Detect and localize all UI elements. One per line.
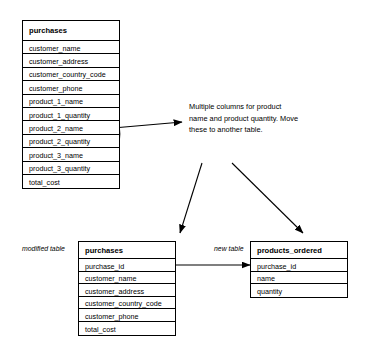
table-row: product_1_name (23, 95, 119, 108)
table-header-purchases-modified: purchases (79, 242, 175, 259)
table-row: product_3_name (23, 148, 119, 161)
table-row: total_cost (23, 175, 119, 188)
table-row: product_3_quantity (23, 162, 119, 175)
caption-new-table: new table (214, 246, 244, 253)
table-purchases-original: purchases customer_name customer_address… (22, 20, 120, 189)
table-row: customer_country_code (23, 68, 119, 81)
table-row: customer_name (23, 41, 119, 54)
diagram-canvas: purchases customer_name customer_address… (0, 0, 365, 353)
table-row: customer_phone (79, 309, 175, 322)
table-row: purchase_id (79, 259, 175, 272)
annotation-note: Multiple columns for product name and pr… (189, 101, 301, 136)
table-row: customer_country_code (79, 297, 175, 310)
table-row: customer_address (23, 54, 119, 67)
table-row: name (251, 272, 347, 285)
table-row: customer_address (79, 284, 175, 297)
table-purchases-modified: purchases purchase_id customer_name cust… (78, 241, 176, 336)
ellipse-to-annotation-arrow (113, 122, 182, 128)
annotation-to-modified-table-arrow (180, 163, 202, 233)
table-row: product_1_quantity (23, 108, 119, 121)
table-row: product_2_quantity (23, 135, 119, 148)
caption-modified-table: modified table (22, 246, 65, 253)
table-row: total_cost (79, 322, 175, 335)
table-row: purchase_id (251, 259, 347, 272)
table-header-purchases-original: purchases (23, 21, 119, 41)
table-row: product_2_name (23, 121, 119, 134)
annotation-to-new-table-arrow (232, 163, 303, 233)
table-row: customer_name (79, 272, 175, 285)
table-row: quantity (251, 284, 347, 297)
table-row: customer_phone (23, 81, 119, 94)
table-products-ordered: products_ordered purchase_id name quanti… (250, 241, 348, 298)
table-header-products-ordered: products_ordered (251, 242, 347, 259)
